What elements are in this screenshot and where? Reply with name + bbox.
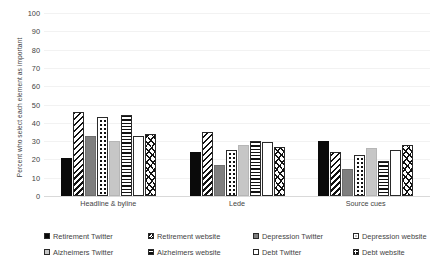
bar[interactable]	[274, 147, 285, 196]
legend-item[interactable]: Depression website	[353, 228, 436, 244]
y-axis-tick-label: 20	[32, 155, 40, 164]
bar[interactable]	[97, 117, 108, 196]
bar[interactable]	[202, 132, 213, 196]
legend-swatch-icon	[148, 249, 154, 255]
legend-item-label: Depression Twitter	[262, 232, 323, 241]
bar[interactable]	[145, 134, 156, 196]
y-axis-tick-label: 90	[32, 27, 40, 36]
legend-item-label: Retirement Twitter	[53, 232, 113, 241]
bar[interactable]	[402, 145, 413, 196]
x-axis-line	[44, 196, 430, 197]
y-axis-tick-label: 0	[36, 192, 40, 201]
bar-group: Source cues	[301, 13, 430, 196]
legend-swatch-icon	[353, 233, 359, 239]
x-axis-category-label: Source cues	[301, 199, 430, 208]
y-axis-tick-label: 70	[32, 63, 40, 72]
bar[interactable]	[366, 148, 377, 196]
bar[interactable]	[73, 112, 84, 196]
y-axis-tick-label: 10	[32, 173, 40, 182]
legend-item-label: Debt website	[362, 248, 405, 257]
legend-item[interactable]: Debt Twitter	[253, 244, 353, 260]
bar[interactable]	[133, 136, 144, 196]
y-axis-title: Percent who select each element as impor…	[16, 15, 23, 201]
legend-swatch-icon	[44, 233, 50, 239]
legend-swatch-icon	[148, 233, 154, 239]
y-axis-tick-label: 100	[28, 9, 40, 18]
legend-item[interactable]: Alzheimers Twitter	[44, 244, 148, 260]
bar[interactable]	[109, 141, 120, 196]
bar[interactable]	[390, 150, 401, 196]
bar[interactable]	[61, 158, 72, 196]
legend-item-label: Depression website	[362, 232, 427, 241]
bar[interactable]	[85, 136, 96, 196]
legend-item[interactable]: Depression Twitter	[253, 228, 353, 244]
y-axis-tick-label: 60	[32, 82, 40, 91]
y-axis-tick-label: 30	[32, 137, 40, 146]
chart-legend: Retirement TwitterRetirement websiteDepr…	[44, 228, 436, 260]
legend-item[interactable]: Retirement Twitter	[44, 228, 148, 244]
legend-swatch-icon	[44, 249, 50, 255]
bar[interactable]	[318, 141, 329, 196]
y-axis-tick-label: 80	[32, 45, 40, 54]
legend-swatch-icon	[353, 249, 359, 255]
bar[interactable]	[262, 142, 273, 196]
legend-item-label: Debt Twitter	[262, 248, 301, 257]
x-axis-category-label: Lede	[173, 199, 302, 208]
bar[interactable]	[354, 155, 365, 196]
bar[interactable]	[378, 161, 389, 196]
legend-item-label: Retirement website	[157, 232, 220, 241]
bar[interactable]	[330, 152, 341, 196]
bar[interactable]	[342, 169, 353, 196]
legend-item[interactable]: Debt website	[353, 244, 436, 260]
legend-item-label: Alzheimers website	[157, 248, 221, 257]
bar[interactable]	[226, 150, 237, 196]
bar[interactable]	[238, 145, 249, 196]
bar[interactable]	[121, 115, 132, 196]
bar-group: Lede	[173, 13, 302, 196]
bar-groups: Headline & bylineLedeSource cues	[44, 13, 430, 196]
bar[interactable]	[250, 141, 261, 196]
y-axis-tick-label: 50	[32, 100, 40, 109]
bar[interactable]	[214, 165, 225, 196]
bar[interactable]	[190, 152, 201, 196]
legend-swatch-icon	[253, 249, 259, 255]
bar-chart: Percent who select each element as impor…	[0, 0, 440, 271]
plot-area: 0102030405060708090100 Headline & byline…	[44, 13, 430, 196]
legend-item-label: Alzheimers Twitter	[53, 248, 113, 257]
legend-swatch-icon	[253, 233, 259, 239]
bar-group: Headline & byline	[44, 13, 173, 196]
legend-item[interactable]: Alzheimers website	[148, 244, 253, 260]
legend-item[interactable]: Retirement website	[148, 228, 253, 244]
y-axis-tick-label: 40	[32, 118, 40, 127]
x-axis-category-label: Headline & byline	[44, 199, 173, 208]
